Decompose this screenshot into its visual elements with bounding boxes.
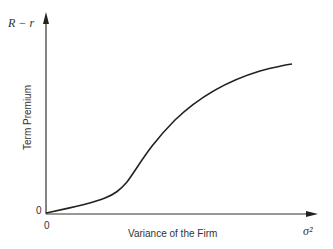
y-axis-symbol: R − r [8, 16, 34, 31]
term-premium-curve [46, 64, 292, 213]
x-axis-arrow-icon [306, 211, 318, 217]
x-axis-symbol: σ² [303, 224, 313, 239]
y-axis-label: Term Premium [22, 83, 33, 153]
y-origin-label: 0 [36, 205, 42, 216]
x-origin-label: 0 [44, 220, 50, 231]
y-axis-arrow-icon [43, 12, 49, 24]
x-axis-label: Variance of the Firm [128, 228, 217, 239]
chart-canvas [0, 0, 333, 249]
